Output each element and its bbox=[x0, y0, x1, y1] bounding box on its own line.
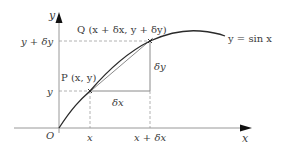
y-tick-label: y bbox=[46, 86, 53, 97]
x-plus-dx-tick-label: x + δx bbox=[134, 132, 166, 143]
dx-label: δx bbox=[112, 97, 124, 108]
origin-label: O bbox=[46, 130, 54, 141]
dashed-guides bbox=[59, 41, 150, 128]
y-plus-dy-tick-label: y + δy bbox=[20, 36, 53, 47]
diagram-canvas: y x O Q (x + δx, y + δy) P (x, y) y = si… bbox=[0, 0, 282, 152]
point-p-label: P (x, y) bbox=[61, 72, 96, 83]
x-axis-arrow-icon bbox=[240, 125, 252, 132]
y-axis-label: y bbox=[48, 9, 56, 22]
point-q-label: Q (x + δx, y + δy) bbox=[77, 24, 167, 35]
y-axis-arrow-icon bbox=[56, 12, 63, 23]
sin-curve-diagram: y x O Q (x + δx, y + δy) P (x, y) y = si… bbox=[0, 0, 282, 152]
chord-pq bbox=[86, 38, 153, 95]
x-axis-label: x bbox=[242, 132, 249, 145]
x-tick-label: x bbox=[87, 132, 93, 143]
dy-label: δy bbox=[154, 61, 166, 72]
curve-label: y = sin x bbox=[227, 33, 272, 44]
